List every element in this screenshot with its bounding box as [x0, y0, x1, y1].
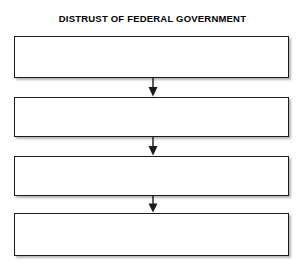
flowchart-node-1[interactable]: [14, 36, 289, 78]
flowchart-node-4[interactable]: [14, 213, 289, 256]
flowchart-diagram: DISTRUST OF FEDERAL GOVERNMENT: [0, 0, 305, 271]
arrow-down-icon-1: [143, 78, 163, 97]
page-title: DISTRUST OF FEDERAL GOVERNMENT: [0, 13, 305, 24]
flowchart-node-3[interactable]: [14, 156, 289, 196]
flowchart-node-3-label: [15, 157, 288, 165]
flowchart-node-1-label: [15, 37, 288, 45]
flowchart-node-2-label: [15, 98, 288, 106]
flowchart-node-4-label: [15, 214, 288, 222]
flowchart-node-2[interactable]: [14, 97, 289, 137]
arrow-down-icon-3: [143, 196, 163, 213]
arrow-down-icon-2: [143, 137, 163, 156]
